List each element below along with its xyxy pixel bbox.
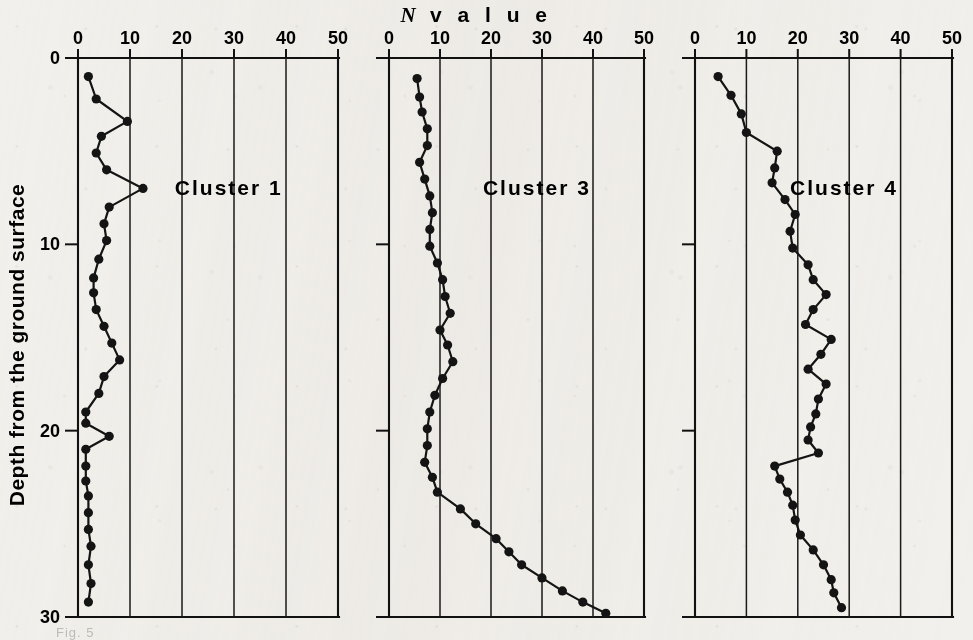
data-point [97, 132, 106, 141]
data-point [773, 147, 782, 156]
data-point [517, 560, 526, 569]
x-tick-label-0: 0 [384, 28, 394, 48]
data-point [788, 244, 797, 253]
data-point [81, 462, 90, 471]
data-point [423, 424, 432, 433]
x-tick-label-20: 20 [481, 28, 501, 48]
data-point [428, 473, 437, 482]
panel-label-cluster-1: Cluster 1 [175, 176, 283, 199]
data-point [433, 488, 442, 497]
x-tick-label-0: 0 [690, 28, 700, 48]
data-point [438, 374, 447, 383]
data-point [578, 598, 587, 607]
x-tick-label-20: 20 [788, 28, 808, 48]
data-point [94, 389, 103, 398]
data-point [827, 575, 836, 584]
data-point [537, 573, 546, 582]
data-point [81, 407, 90, 416]
data-point [84, 525, 93, 534]
data-point [423, 141, 432, 150]
data-point [806, 422, 815, 431]
data-point [81, 419, 90, 428]
data-point [804, 260, 813, 269]
data-point [84, 598, 93, 607]
data-point [804, 435, 813, 444]
data-point [81, 445, 90, 454]
x-tick-label-30: 30 [839, 28, 859, 48]
data-point [448, 357, 457, 366]
data-point [770, 163, 779, 172]
data-point [86, 542, 95, 551]
y-tick-label-20: 20 [40, 421, 60, 441]
data-point [420, 458, 429, 467]
data-point [92, 305, 101, 314]
x-tick-label-10: 10 [120, 28, 140, 48]
data-point [84, 72, 93, 81]
data-point [84, 508, 93, 517]
data-point [89, 288, 98, 297]
data-point [433, 258, 442, 267]
x-tick-label-20: 20 [172, 28, 192, 48]
data-point [791, 516, 800, 525]
x-tick-label-50: 50 [328, 28, 348, 48]
panel-label-cluster-3: Cluster 3 [483, 176, 591, 199]
panels-layer: 010203040500102030Cluster 101020304050Cl… [40, 28, 962, 627]
x-tick-label-40: 40 [891, 28, 911, 48]
data-point [783, 488, 792, 497]
panel-cluster-4: 01020304050Cluster 4 [682, 28, 962, 617]
data-point [138, 184, 147, 193]
x-tick-label-30: 30 [532, 28, 552, 48]
data-point [94, 255, 103, 264]
data-point [601, 609, 610, 618]
data-point [86, 579, 95, 588]
figure-root: N v a l u e Depth from the ground surfac… [0, 0, 973, 640]
x-tick-label-40: 40 [276, 28, 296, 48]
data-point [809, 305, 818, 314]
data-point [504, 547, 513, 556]
data-point [822, 290, 831, 299]
data-point [827, 335, 836, 344]
y-tick-label-0: 0 [50, 48, 60, 68]
data-point [441, 292, 450, 301]
data-point [102, 165, 111, 174]
data-point [811, 409, 820, 418]
data-point [99, 322, 108, 331]
data-point [92, 148, 101, 157]
x-tick-label-10: 10 [430, 28, 450, 48]
data-point [99, 219, 108, 228]
x-tick-label-50: 50 [634, 28, 654, 48]
data-point [780, 195, 789, 204]
data-point [428, 208, 437, 217]
panel-label-cluster-4: Cluster 4 [790, 176, 898, 199]
panel-cluster-1: 010203040500102030Cluster 1 [40, 28, 348, 627]
data-point [829, 588, 838, 597]
x-tick-label-50: 50 [942, 28, 962, 48]
chart-title-n-symbol: N [399, 3, 416, 27]
n-value-depth-chart: N v a l u e Depth from the ground surfac… [0, 0, 973, 640]
data-point [435, 325, 444, 334]
data-point [770, 462, 779, 471]
data-point [418, 107, 427, 116]
y-tick-label-10: 10 [40, 234, 60, 254]
data-point [786, 227, 795, 236]
data-point [123, 117, 132, 126]
y-axis-label: Depth from the ground surface [5, 184, 28, 507]
data-point [84, 560, 93, 569]
data-point [796, 530, 805, 539]
data-point [420, 175, 429, 184]
chart-title-value-word: v a l u e [430, 3, 552, 26]
data-point [102, 236, 111, 245]
data-point [791, 210, 800, 219]
data-point [816, 350, 825, 359]
data-point [742, 128, 751, 137]
data-point [443, 340, 452, 349]
figure-caption-partial: Fig. 5 [56, 625, 95, 640]
y-tick-label-30: 30 [40, 607, 60, 627]
panel-cluster-3: 01020304050Cluster 3 [376, 28, 654, 618]
data-point [788, 501, 797, 510]
data-point [726, 91, 735, 100]
data-point [737, 109, 746, 118]
data-point [809, 545, 818, 554]
data-point [814, 394, 823, 403]
x-tick-label-10: 10 [736, 28, 756, 48]
